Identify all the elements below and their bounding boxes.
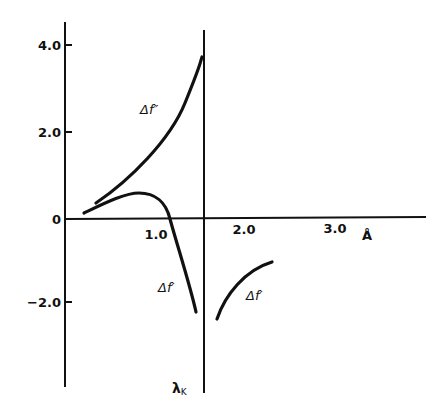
- delta-f-prime-right-curve: [217, 262, 272, 319]
- delta-f-prime-right-label: Δf′: [245, 288, 262, 303]
- delta-f-prime-left-curve: [84, 193, 196, 312]
- x-axis-unit-label: Å: [362, 228, 372, 243]
- delta-f-double-prime-label: Δf″: [139, 102, 158, 117]
- anomalous-scattering-chart: 4.0 2.0 0 −2.0 1.0 2.0 3.0 Å λK Δf″ Δf′ …: [0, 0, 447, 401]
- delta-f-double-prime-curve: [96, 57, 202, 203]
- x-tick-label-3: 3.0: [323, 221, 346, 236]
- y-tick-label-m2: −2.0: [27, 295, 61, 310]
- y-tick-label-4: 4.0: [38, 38, 61, 53]
- delta-f-prime-left-label: Δf′: [157, 280, 174, 295]
- x-tick-label-1: 1.0: [144, 227, 167, 242]
- y-tick-label-0: 0: [52, 212, 61, 227]
- x-axis: [65, 217, 426, 219]
- y-tick-label-2: 2.0: [38, 125, 61, 140]
- lambda-k-label: λK: [172, 380, 188, 397]
- x-tick-label-2: 2.0: [232, 222, 255, 237]
